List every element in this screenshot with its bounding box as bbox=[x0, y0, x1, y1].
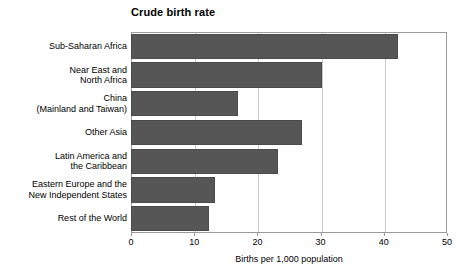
category-labels: Sub-Saharan AfricaNear East and North Af… bbox=[0, 32, 127, 233]
category-label: Sub-Saharan Africa bbox=[0, 41, 127, 52]
bar[interactable] bbox=[131, 91, 238, 116]
bar[interactable] bbox=[131, 34, 398, 59]
chart-title: Crude birth rate bbox=[131, 6, 215, 18]
bar[interactable] bbox=[131, 206, 209, 231]
bar-row bbox=[131, 147, 447, 176]
x-axis: 01020304050 bbox=[131, 233, 447, 255]
bar[interactable] bbox=[131, 62, 322, 87]
x-tick-mark bbox=[447, 233, 448, 236]
bars-layer bbox=[131, 32, 447, 233]
bar-row bbox=[131, 118, 447, 147]
x-tick-mark bbox=[321, 233, 322, 236]
bar-row bbox=[131, 61, 447, 90]
bar-row bbox=[131, 32, 447, 61]
x-tick-label: 30 bbox=[306, 237, 336, 247]
x-tick-label: 0 bbox=[116, 237, 146, 247]
x-tick-mark bbox=[384, 233, 385, 236]
category-label: China (Mainland and Taiwan) bbox=[0, 93, 127, 114]
bar-row bbox=[131, 204, 447, 233]
x-axis-title: Births per 1,000 population bbox=[131, 254, 447, 264]
x-tick-label: 20 bbox=[242, 237, 272, 247]
x-tick-label: 40 bbox=[369, 237, 399, 247]
category-label: Near East and North Africa bbox=[0, 65, 127, 86]
x-tick-mark bbox=[131, 233, 132, 236]
bar[interactable] bbox=[131, 120, 302, 145]
x-tick-label: 50 bbox=[432, 237, 462, 247]
crude-birth-rate-chart: Crude birth rate Sub-Saharan AfricaNear … bbox=[0, 0, 464, 274]
bar-row bbox=[131, 176, 447, 205]
x-tick-mark bbox=[194, 233, 195, 236]
bar[interactable] bbox=[131, 177, 215, 202]
bar[interactable] bbox=[131, 149, 278, 174]
x-tick-mark bbox=[257, 233, 258, 236]
category-label: Latin America and the Caribbean bbox=[0, 151, 127, 172]
category-label: Other Asia bbox=[0, 127, 127, 138]
x-tick-label: 10 bbox=[179, 237, 209, 247]
category-label: Rest of the World bbox=[0, 213, 127, 224]
bar-row bbox=[131, 89, 447, 118]
category-label: Eastern Europe and the New Independent S… bbox=[0, 179, 127, 200]
